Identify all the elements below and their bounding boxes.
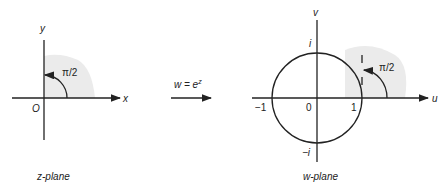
u-axis-label: u: [432, 93, 438, 104]
tick-neg-imag: −i: [302, 147, 311, 158]
v-axis-label: v: [313, 7, 319, 18]
w-plane-title: w-plane: [303, 171, 338, 182]
conformal-map-diagram: x y O π/2 z-plane w = ez u v 0 1 −1 i −i…: [0, 0, 443, 192]
y-axis-label: y: [39, 23, 46, 34]
w-origin-label: 0: [306, 102, 312, 113]
z-plane-title: z-plane: [36, 171, 70, 182]
z-origin-label: O: [32, 103, 40, 114]
tick-neg-real: −1: [255, 102, 267, 113]
z-plane: x y O π/2 z-plane: [12, 23, 129, 182]
mapping-equation: w = ez: [174, 78, 202, 90]
z-angle-label: π/2: [62, 67, 78, 78]
tick-pos-imag: i: [309, 38, 312, 49]
mapping: w = ez: [171, 78, 211, 98]
w-plane: u v 0 1 −1 i −i π/2 w-plane: [252, 7, 438, 182]
tick-pos-real: 1: [351, 102, 357, 113]
x-axis-label: x: [122, 93, 129, 104]
w-angle-label: π/2: [379, 62, 395, 73]
